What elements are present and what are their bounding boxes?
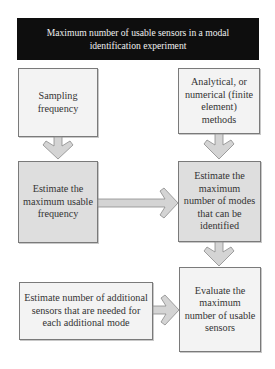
- node-evaluate-usable-sensors: Evaluate the maximum number of usable se…: [179, 267, 261, 352]
- arrow-down-icon: [204, 242, 234, 266]
- node-estimate-max-frequency: Estimate the maximum usable frequency: [18, 161, 98, 243]
- arrow-down-icon: [43, 137, 73, 159]
- arrow-down-icon: [204, 134, 234, 159]
- node-estimate-max-modes: Estimate the maximum number of modes tha…: [178, 161, 261, 242]
- node-label: Sampling frequency: [23, 90, 93, 115]
- diagram-title: Maximum number of usable sensors in a mo…: [17, 18, 259, 60]
- node-label: Evaluate the maximum number of usable se…: [184, 285, 256, 335]
- node-label: Estimate number of additional sensors th…: [24, 292, 148, 330]
- node-label: Analytical, or numerical (finite element…: [183, 76, 255, 126]
- arrow-right-icon: [153, 295, 179, 325]
- node-label: Estimate the maximum usable frequency: [23, 183, 93, 221]
- node-additional-sensors: Estimate number of additional sensors th…: [19, 282, 153, 340]
- arrow-right-icon: [98, 188, 178, 218]
- node-analytical-methods: Analytical, or numerical (finite element…: [178, 68, 260, 134]
- node-sampling-frequency: Sampling frequency: [18, 68, 98, 137]
- node-label: Estimate the maximum number of modes tha…: [183, 170, 256, 233]
